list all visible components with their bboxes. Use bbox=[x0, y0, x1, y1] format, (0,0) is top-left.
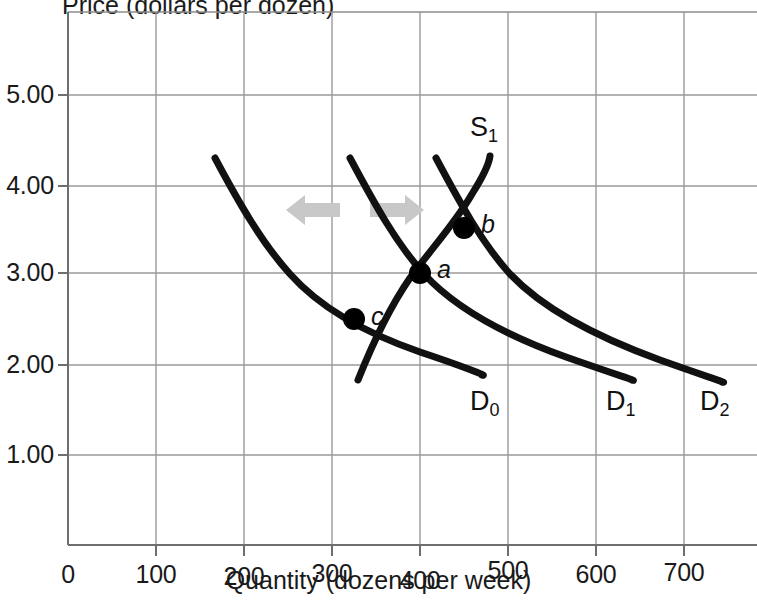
point-label-b: b bbox=[481, 210, 495, 239]
y-tick-label-5: 5.00 bbox=[0, 80, 54, 109]
demand-curve-d2 bbox=[436, 158, 724, 382]
curve-label-s1-sub: 1 bbox=[488, 126, 498, 146]
curve-label-d1: D1 bbox=[606, 386, 636, 421]
curve-label-d2-text: D bbox=[700, 386, 720, 416]
supply-demand-chart: Price (dollars per dozen) bbox=[0, 0, 757, 605]
curve-label-d1-sub: 1 bbox=[626, 400, 636, 420]
point-label-a: a bbox=[437, 255, 451, 284]
curve-label-d2-sub: 2 bbox=[720, 400, 730, 420]
curve-label-s1: S1 bbox=[470, 112, 498, 147]
y-tick-label-1: 1.00 bbox=[0, 440, 54, 469]
equilibrium-marker-a bbox=[409, 262, 431, 284]
curve-label-d0: D0 bbox=[470, 386, 500, 421]
x-axis-ticks bbox=[156, 545, 684, 556]
x-axis-title: Quantity (dozens per week) bbox=[0, 566, 757, 595]
equilibrium-marker-b bbox=[453, 217, 475, 239]
y-tick-label-3: 3.00 bbox=[0, 258, 54, 287]
y-tick-label-4: 4.00 bbox=[0, 171, 54, 200]
curve-label-d0-sub: 0 bbox=[490, 400, 500, 420]
curve-label-s1-text: S bbox=[470, 112, 488, 142]
curve-label-d1-text: D bbox=[606, 386, 626, 416]
equilibrium-marker-c bbox=[343, 308, 365, 330]
point-label-c: c bbox=[371, 302, 384, 331]
y-axis-ticks bbox=[58, 95, 68, 455]
demand-curve-d1 bbox=[350, 158, 633, 380]
curve-label-d0-text: D bbox=[470, 386, 490, 416]
y-tick-label-2: 2.00 bbox=[0, 350, 54, 379]
curve-label-d2: D2 bbox=[700, 386, 730, 421]
